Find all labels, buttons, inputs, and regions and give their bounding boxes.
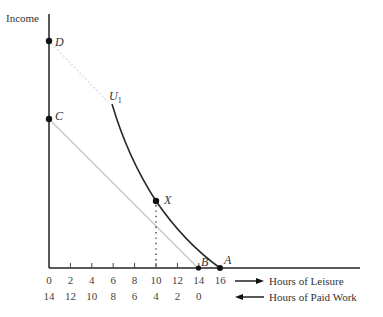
svg-text:14: 14 xyxy=(193,274,205,286)
label-a: A xyxy=(223,253,232,267)
svg-text:16: 16 xyxy=(215,274,227,286)
labor-leisure-chart: Income D C X B A U1 0 2 4 6 8 10 12 14 xyxy=(0,0,383,317)
svg-text:8: 8 xyxy=(110,290,116,302)
svg-text:10: 10 xyxy=(151,274,163,286)
indifference-curve-u1 xyxy=(112,104,220,268)
svg-text:4: 4 xyxy=(89,274,95,286)
leisure-tick-labels: 0 2 4 6 8 10 12 14 16 xyxy=(46,274,226,286)
svg-text:0: 0 xyxy=(46,274,52,286)
arrow-left-icon xyxy=(235,294,264,300)
point-a xyxy=(217,265,223,271)
svg-text:2: 2 xyxy=(175,290,181,302)
point-d xyxy=(46,38,52,44)
leisure-axis-label: Hours of Leisure xyxy=(269,275,344,287)
work-axis-label: Hours of Paid Work xyxy=(269,291,357,303)
label-u1: U1 xyxy=(109,89,122,105)
work-tick-labels: 14 12 10 8 6 4 2 0 xyxy=(44,290,203,302)
budget-line-cb xyxy=(49,119,198,268)
svg-text:6: 6 xyxy=(132,290,138,302)
svg-text:12: 12 xyxy=(65,290,76,302)
point-x xyxy=(153,198,159,204)
y-axis-label: Income xyxy=(6,12,39,24)
label-x: X xyxy=(163,193,172,207)
arrow-right-icon xyxy=(235,278,264,284)
budget-line-d xyxy=(49,41,108,102)
point-c xyxy=(46,116,52,122)
svg-text:2: 2 xyxy=(68,274,74,286)
svg-text:8: 8 xyxy=(132,274,138,286)
svg-text:14: 14 xyxy=(44,290,56,302)
svg-text:0: 0 xyxy=(196,290,202,302)
svg-text:6: 6 xyxy=(110,274,116,286)
label-c: C xyxy=(55,109,64,123)
svg-text:4: 4 xyxy=(153,290,159,302)
label-d: D xyxy=(54,35,64,49)
svg-text:10: 10 xyxy=(86,290,98,302)
svg-text:12: 12 xyxy=(172,274,183,286)
label-b: B xyxy=(201,255,209,269)
